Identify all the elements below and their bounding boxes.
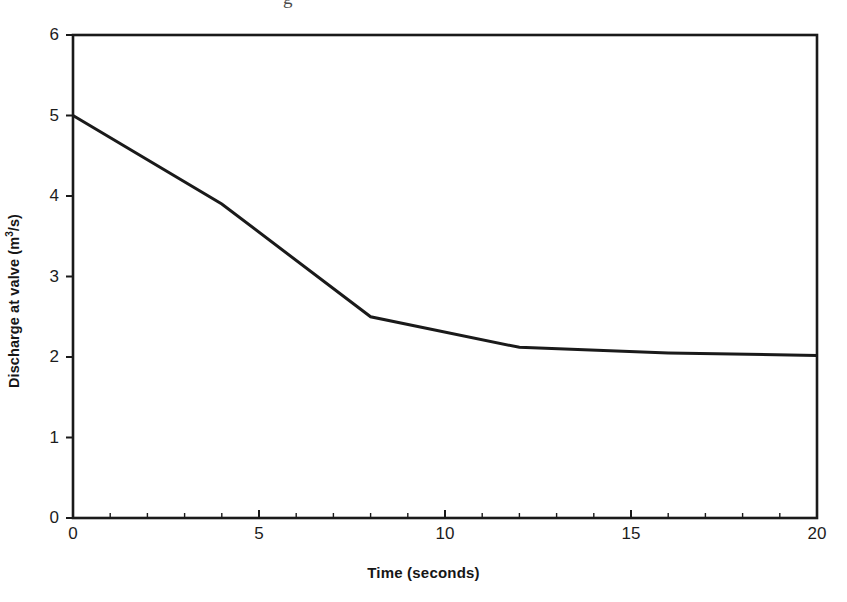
x-tick-label: 10 (425, 524, 465, 544)
x-axis-title: Time (seconds) (0, 564, 847, 581)
x-tick-label: 0 (53, 524, 93, 544)
y-axis-title: Discharge at valve (m3/s) (0, 0, 28, 602)
y-tick-label: 4 (27, 186, 59, 206)
chart-plot-svg (0, 0, 847, 602)
data-series-line (73, 116, 817, 356)
y-tick-label: 1 (27, 428, 59, 448)
plot-frame (73, 35, 817, 518)
y-axis-title-exponent: 3 (4, 231, 15, 237)
y-axis-title-before: Discharge at valve (m (6, 237, 22, 388)
x-axis-ticks (73, 510, 817, 518)
x-tick-label: 5 (239, 524, 279, 544)
figure-container: g 05101520 0123456 Time (seconds) Discha… (0, 0, 847, 602)
y-tick-label: 3 (27, 267, 59, 287)
y-tick-label: 0 (27, 508, 59, 528)
y-tick-label: 2 (27, 347, 59, 367)
x-tick-label: 20 (797, 524, 837, 544)
x-tick-label: 15 (611, 524, 651, 544)
y-tick-label: 6 (27, 25, 59, 45)
y-tick-label: 5 (27, 106, 59, 126)
y-axis-title-after: /s) (6, 214, 22, 231)
